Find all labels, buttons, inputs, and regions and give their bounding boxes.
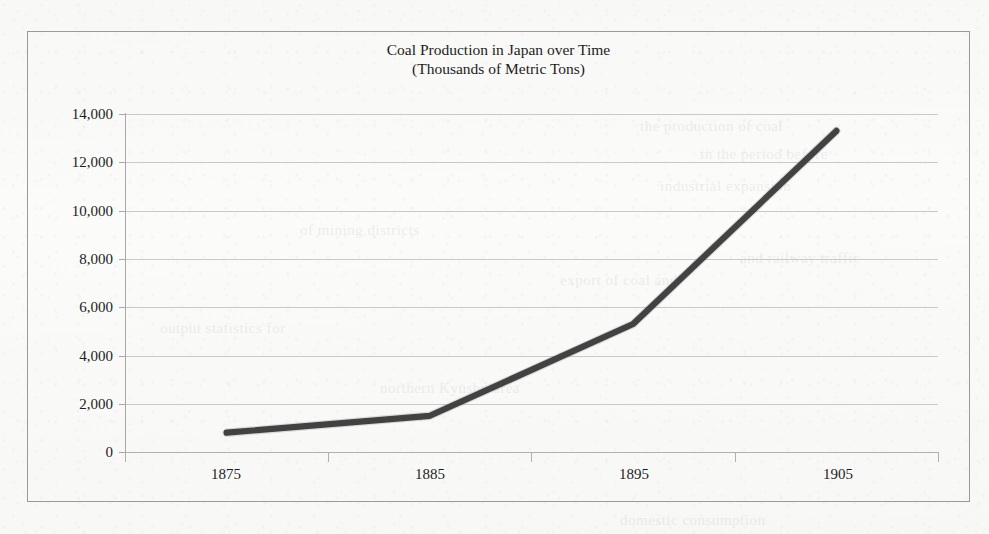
series-layer <box>0 0 989 534</box>
series-line-coal-production[interactable] <box>227 131 837 433</box>
series-line-halo <box>227 131 837 433</box>
scanned-page-background: the production of coal in the period bef… <box>0 0 989 534</box>
